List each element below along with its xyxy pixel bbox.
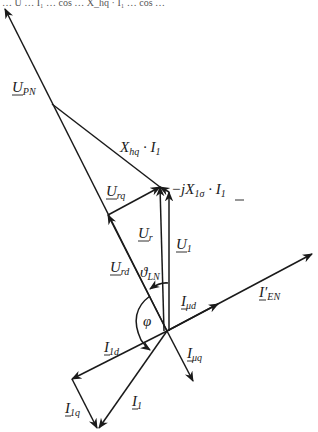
label-i-1d: I1d — [103, 339, 120, 357]
svg-text:φ: φ — [143, 313, 151, 329]
svg-text:Iμq: Iμq — [186, 345, 202, 363]
label-xhq-i1: Xhq · I1 — [119, 139, 160, 157]
svg-text:I1d: I1d — [103, 339, 120, 357]
label-i-mud: Iμd — [180, 293, 197, 311]
label-i-muq: Iμq — [186, 345, 202, 363]
label-u-rq: Urq — [106, 183, 125, 201]
vector-u-r — [160, 187, 164, 331]
label-u-pn: UPN — [12, 79, 37, 97]
label-phi: φ — [143, 313, 151, 329]
cropped-formula-text: … U … I₁ … cos … X_hq · I₁ … cos … — [2, 0, 165, 8]
svg-text:I1q: I1q — [64, 400, 80, 418]
phasor-diagram: … U … I₁ … cos … X_hq · I₁ … cos … UPN X… — [0, 0, 318, 432]
angle-theta-ln-arc — [150, 283, 168, 289]
svg-text:Xhq · I1: Xhq · I1 — [119, 139, 160, 157]
svg-text:Urq: Urq — [106, 183, 125, 201]
label-u-rd: Urd — [110, 259, 130, 277]
label-u-1: U1 — [176, 236, 192, 254]
svg-text:I′EN: I′EN — [258, 284, 281, 302]
label-i-1: I1 — [131, 393, 142, 411]
svg-text:Ur: Ur — [138, 225, 153, 243]
vector-i-1d — [72, 331, 167, 379]
svg-text:−jX1σ · I1: −jX1σ · I1 — [171, 181, 226, 199]
svg-text:Urd: Urd — [110, 259, 130, 277]
label-i-en: I′EN — [258, 284, 281, 302]
svg-text:I1: I1 — [131, 393, 142, 411]
label-i-1q: I1q — [64, 400, 80, 418]
vector-jx1s-i1 — [160, 187, 169, 192]
svg-text:UPN: UPN — [12, 79, 37, 97]
vector-i-1q — [72, 379, 97, 428]
label-jx1s-i1: −jX1σ · I1 — [171, 181, 244, 200]
svg-text:Iμd: Iμd — [180, 293, 197, 311]
svg-text:U1: U1 — [176, 236, 192, 254]
label-theta-ln: ϑLN — [140, 264, 161, 282]
svg-text:ϑLN: ϑLN — [140, 264, 161, 282]
label-u-r: Ur — [138, 225, 153, 243]
